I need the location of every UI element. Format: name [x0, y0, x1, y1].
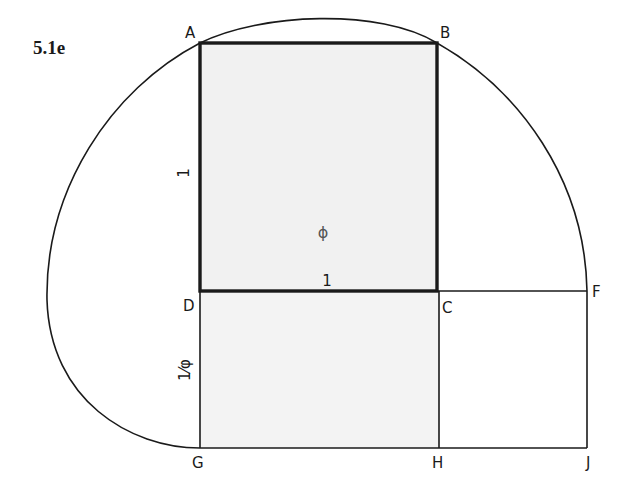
- figure-label: 5.1e: [33, 37, 65, 58]
- point-label-f: F: [592, 283, 601, 301]
- square-abcd-fill: [200, 43, 437, 291]
- outer-arc-left: [47, 43, 200, 448]
- golden-ratio-diagram: 5.1e A B D C F G H J 1 1 1⁄φ ϕ: [0, 0, 628, 495]
- rectangle-dchg-fill: [200, 291, 439, 448]
- point-label-d: D: [183, 297, 195, 315]
- dimension-square-horizontal: 1: [322, 272, 332, 290]
- dimension-square-vertical: 1: [175, 168, 193, 178]
- point-label-a: A: [185, 24, 196, 42]
- point-label-c: C: [442, 299, 452, 317]
- point-label-j: J: [585, 454, 590, 472]
- phi-symbol: ϕ: [318, 223, 329, 242]
- point-label-g: G: [192, 454, 204, 472]
- point-label-b: B: [440, 24, 450, 42]
- dimension-rect-vertical: 1⁄φ: [176, 359, 194, 381]
- point-label-h: H: [432, 454, 443, 472]
